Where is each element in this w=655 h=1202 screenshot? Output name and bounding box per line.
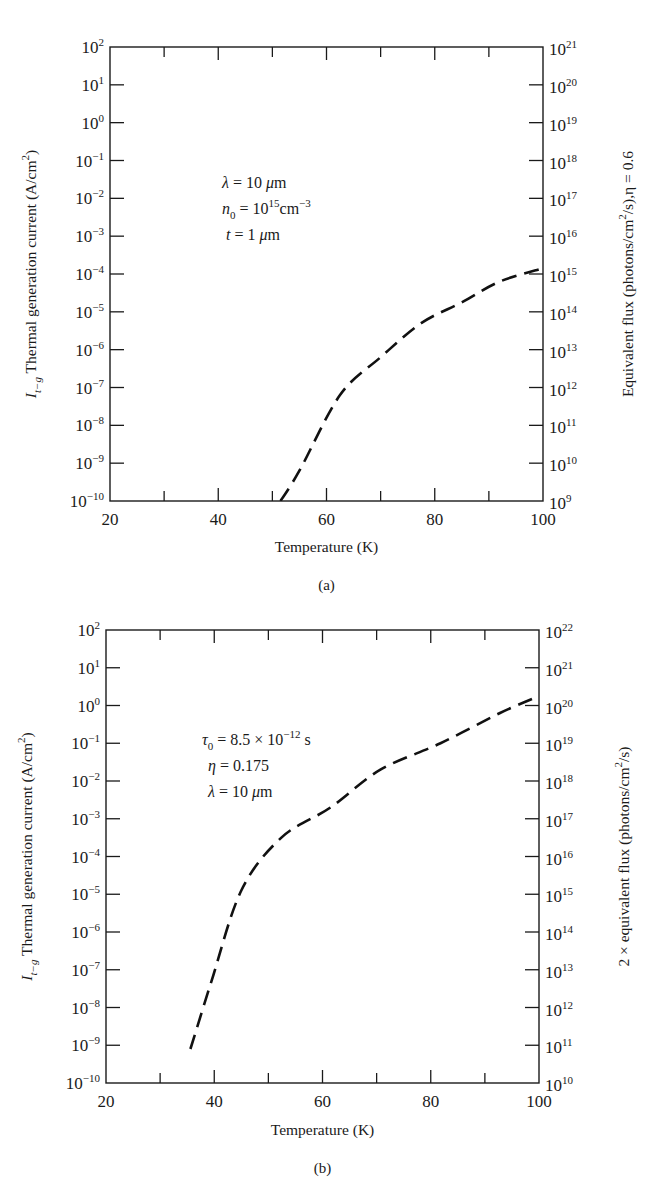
y-tick-label-right: 1010 [545, 1074, 574, 1095]
x-tick-label: 60 [314, 1092, 331, 1111]
plot-frame [106, 630, 539, 1083]
dashed-data-curve [281, 268, 544, 501]
y-tick-label-left: 10−4 [75, 263, 104, 284]
chart-panel-a: 2040608010010210211011020100101910−11018… [19, 36, 637, 594]
figure-canvas: 2040608010010210211011020100101910−11018… [0, 0, 655, 1202]
plot-frame [110, 47, 543, 501]
y-tick-label-left: 101 [78, 657, 101, 678]
y-tick-label-right: 1020 [549, 76, 578, 97]
parameter-annotation: n0 = 1015cm−3 [222, 197, 311, 221]
y-tick-label-right: 1013 [545, 961, 574, 982]
y-tick-label-left: 10−2 [71, 770, 100, 791]
y-tick-label-left: 10−6 [71, 921, 100, 942]
y-tick-label-left: 10−1 [75, 150, 104, 171]
x-tick-label: 20 [102, 510, 119, 529]
x-tick-label: 20 [98, 1092, 115, 1111]
y-axis-label-left: It−g Thermal generation current (A/cm2) [19, 150, 43, 399]
parameter-annotation: λ = 10 μm [207, 783, 273, 801]
y-axis-label-right: Equivalent flux (photons/cm2/s),η = 0.6 [616, 151, 637, 397]
y-tick-label-left: 10−9 [71, 1034, 100, 1055]
y-tick-label-right: 1012 [549, 379, 577, 400]
y-tick-label-left: 10−6 [75, 339, 104, 360]
y-tick-label-right: 109 [549, 492, 572, 513]
y-tick-label-left: 10−1 [71, 732, 100, 753]
parameter-annotation: λ = 10 μm [221, 174, 287, 192]
y-tick-label-right: 1010 [549, 454, 578, 475]
y-tick-label-right: 1011 [545, 1036, 573, 1057]
y-tick-label-left: 10−3 [75, 225, 104, 246]
x-tick-label: 80 [426, 510, 443, 529]
y-tick-label-right: 1018 [545, 772, 574, 793]
chart-panel-b: 2040608010010210221011021100102010−11019… [15, 619, 633, 1177]
y-tick-label-left: 10−7 [75, 377, 104, 398]
y-tick-label-left: 10−8 [75, 414, 104, 435]
y-tick-label-right: 1019 [549, 114, 578, 135]
y-tick-label-right: 1022 [545, 621, 573, 642]
y-tick-label-right: 1011 [549, 416, 577, 437]
y-tick-label-right: 1021 [549, 38, 577, 59]
x-tick-label: 80 [422, 1092, 439, 1111]
y-tick-label-left: 10−10 [66, 1072, 101, 1093]
parameter-annotation: η = 0.175 [208, 757, 269, 775]
y-tick-label-right: 1015 [549, 265, 578, 286]
y-tick-label-left: 10−3 [71, 808, 100, 829]
y-tick-label-right: 1016 [545, 848, 574, 869]
y-tick-label-right: 1016 [549, 227, 578, 248]
y-tick-label-right: 1013 [549, 341, 578, 362]
y-tick-label-left: 102 [78, 619, 101, 640]
parameter-annotation: τ0 = 8.5 × 10−12 s [202, 728, 311, 752]
y-tick-label-left: 102 [82, 36, 105, 57]
y-axis-label-right: 2 × equivalent flux (photons/cm2/s) [612, 746, 633, 966]
y-tick-label-left: 10−7 [71, 959, 100, 980]
y-tick-label-left: 10−10 [70, 490, 105, 511]
y-tick-label-left: 10−4 [71, 846, 100, 867]
y-tick-label-right: 1018 [549, 152, 578, 173]
y-tick-label-right: 1017 [549, 189, 578, 210]
y-tick-label-left: 101 [82, 74, 105, 95]
x-tick-label: 60 [318, 510, 335, 529]
parameter-annotation: t = 1 μm [226, 226, 281, 244]
panel-caption: (a) [318, 577, 335, 594]
y-tick-label-left: 10−5 [71, 883, 100, 904]
y-tick-label-left: 10−2 [75, 187, 104, 208]
y-axis-label-left: It−g Thermal generation current (A/cm2) [15, 732, 39, 981]
y-tick-label-right: 1017 [545, 810, 574, 831]
x-axis-label: Temperature (K) [275, 538, 378, 556]
x-tick-label: 40 [210, 510, 227, 529]
y-tick-label-left: 10−9 [75, 452, 104, 473]
y-tick-label-right: 1014 [549, 303, 578, 324]
y-tick-label-left: 10−8 [71, 997, 100, 1018]
y-tick-label-right: 1019 [545, 734, 574, 755]
panel-caption: (b) [314, 1160, 332, 1177]
y-tick-label-left: 100 [82, 112, 105, 133]
y-tick-label-right: 1012 [545, 999, 573, 1020]
y-tick-label-left: 100 [78, 695, 101, 716]
y-tick-label-right: 1015 [545, 885, 574, 906]
y-tick-label-left: 10−5 [75, 301, 104, 322]
dashed-data-curve [190, 696, 539, 1049]
x-tick-label: 40 [206, 1092, 223, 1111]
y-tick-label-right: 1021 [545, 659, 573, 680]
x-axis-label: Temperature (K) [271, 1121, 374, 1139]
y-tick-label-right: 1020 [545, 697, 574, 718]
y-tick-label-right: 1014 [545, 923, 574, 944]
